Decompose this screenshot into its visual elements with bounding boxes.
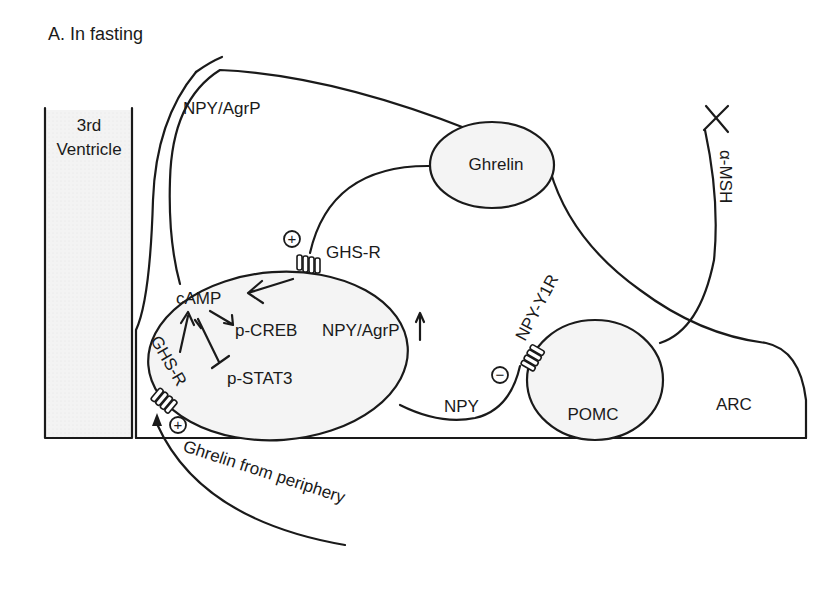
npy-agrp-axon-label: NPY/AgrP: [183, 99, 260, 118]
block-x-icon: [704, 106, 728, 132]
ghs-r-bottom-sign: +: [174, 416, 183, 433]
ghrelin-label: Ghrelin: [469, 155, 524, 174]
ventricle-label-line1: 3rd: [77, 116, 102, 135]
pomc-label: POMC: [568, 405, 619, 424]
ghs-r-top-label: GHS-R: [326, 243, 381, 262]
npy-y1r-sign: −: [496, 366, 505, 383]
arrowhead-icon: [152, 413, 162, 426]
pomc-axon: [660, 130, 716, 343]
alpha-msh-label: α-MSH: [716, 150, 735, 203]
ghrelin-neuron: Ghrelin: [430, 122, 554, 208]
hypothalamic-fasting-diagram: A. In fasting 3rd Ventricle NPY/AgrP α-M…: [0, 0, 836, 593]
camp-label: cAMP: [176, 289, 221, 308]
third-ventricle: 3rd Ventricle: [45, 108, 132, 438]
increase-arrow-icon: [416, 313, 424, 340]
npy-agrp-projection-tip: [196, 57, 222, 72]
p-creb-label: p-CREB: [235, 321, 297, 340]
ghs-r-top-receptor: + GHS-R: [284, 230, 381, 273]
arc-label: ARC: [716, 395, 752, 414]
p-stat3-label: p-STAT3: [227, 369, 293, 388]
npy-label: NPY: [444, 397, 479, 416]
receptor-icon: [297, 255, 320, 273]
peripheral-ghrelin-label: Ghrelin from periphery: [181, 437, 348, 507]
ventricle-label-line2: Ventricle: [56, 140, 121, 159]
npy-agrp-output-label: NPY/AgrP: [322, 321, 399, 340]
pomc-neuron: POMC: [527, 320, 663, 440]
panel-title: A. In fasting: [48, 24, 143, 44]
ghs-r-top-sign: +: [288, 230, 297, 247]
ghrelin-axon: [310, 166, 430, 253]
